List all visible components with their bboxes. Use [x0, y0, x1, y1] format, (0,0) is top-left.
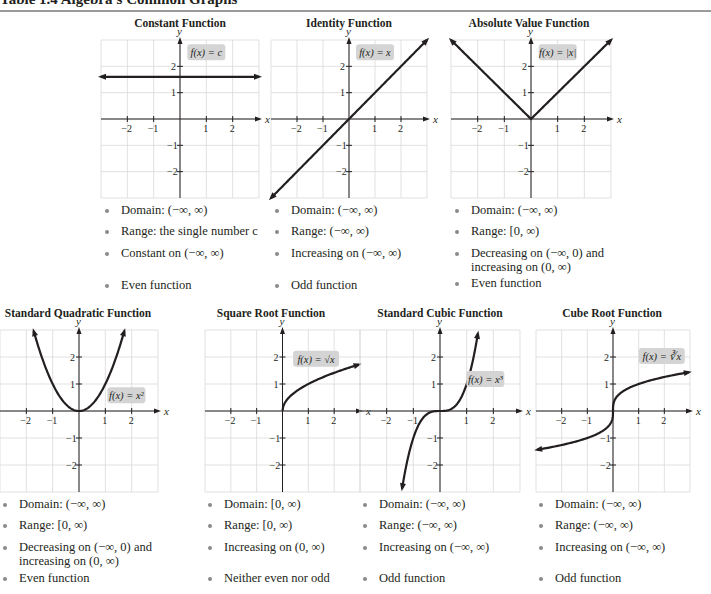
x-tick-label: 2	[331, 415, 336, 426]
y-tick-label: 1	[522, 87, 527, 98]
function-label-text: f(x) = x³	[468, 374, 504, 386]
y-tick-label: −1	[600, 433, 611, 444]
property-item: Even function	[0, 571, 89, 586]
property-item: Range: [0, ∞)	[205, 518, 292, 533]
y-tick-label: −1	[427, 433, 438, 444]
curve-end-arrow-icon	[474, 331, 480, 339]
y-tick-label: 2	[431, 352, 436, 363]
axes: xy−2−11221−1−2	[205, 315, 371, 492]
y-tick-label: 1	[431, 379, 436, 390]
property-item: Neither even nor odd	[205, 571, 330, 586]
x-tick-label: 2	[661, 415, 666, 426]
axes: xy−2−11221−1−2	[360, 315, 531, 492]
function-label: f(x) = x²	[107, 387, 145, 403]
x-axis-label: x	[432, 113, 438, 125]
x-tick-label: −2	[225, 415, 236, 426]
x-axis-label: x	[163, 405, 169, 417]
y-axis-label: y	[436, 315, 442, 327]
x-tick-label: −1	[47, 415, 58, 426]
property-item: Decreasing on (−∞, 0) and	[452, 246, 604, 261]
y-tick-label: −1	[167, 140, 178, 151]
curve-end-arrow-icon	[120, 328, 126, 337]
function-curve	[283, 365, 359, 411]
function-label: f(x) = |x|	[539, 44, 577, 60]
property-item: Domain: (−∞, ∞)	[0, 497, 105, 512]
property-item: Range: [0, ∞)	[452, 224, 539, 239]
curve-start-arrow-icon	[534, 446, 542, 452]
y-tick-label: 2	[522, 61, 527, 72]
title-divider	[0, 10, 711, 12]
x-tick-label: −1	[407, 415, 418, 426]
function-label: f(x) = x	[356, 44, 394, 60]
x-tick-label: 2	[129, 415, 134, 426]
property-item: increasing on (0, ∞)	[452, 260, 571, 275]
curve-start-arrow-icon	[32, 328, 38, 337]
x-tick-label: 2	[490, 415, 495, 426]
y-axis-label: y	[527, 25, 533, 37]
coordinate-plane: xy−2−11221−1−2f(x) = |x|	[451, 28, 611, 198]
x-tick-label: 1	[372, 123, 377, 134]
function-label: f(x) = ∛x	[639, 348, 685, 364]
curve-end-arrow-icon	[254, 74, 262, 80]
x-tick-label: −2	[121, 123, 132, 134]
x-tick-label: 2	[581, 123, 586, 134]
y-tick-label: 2	[70, 352, 75, 363]
y-tick-label: 2	[171, 61, 176, 72]
x-tick-label: −2	[381, 415, 392, 426]
y-axis-arrow-icon	[347, 37, 352, 44]
y-tick-label: −2	[270, 460, 281, 471]
property-item: Range: (−∞, ∞)	[272, 224, 369, 239]
property-item: Constant on (−∞, ∞)	[102, 246, 224, 261]
coordinate-plane: xy−2−11221−1−2f(x) = c	[101, 28, 259, 198]
y-tick-label: −2	[600, 460, 611, 471]
property-item: increasing on (0, ∞)	[0, 554, 119, 569]
y-axis-arrow-icon	[529, 37, 534, 44]
y-axis-label: y	[279, 315, 285, 327]
property-item: Increasing on (−∞, ∞)	[360, 540, 489, 555]
property-item: Domain: (−∞, ∞)	[102, 203, 207, 218]
y-tick-label: −2	[518, 166, 529, 177]
x-tick-label: −1	[148, 123, 159, 134]
y-tick-label: −1	[66, 433, 77, 444]
property-item: Even function	[452, 276, 541, 291]
x-tick-label: −1	[317, 123, 328, 134]
x-axis-arrow-icon	[607, 117, 614, 122]
y-axis-arrow-icon	[611, 327, 616, 334]
x-tick-label: −2	[20, 415, 31, 426]
y-tick-label: −1	[270, 433, 281, 444]
y-axis-arrow-icon	[178, 37, 183, 44]
x-axis-label: x	[264, 113, 270, 125]
y-tick-label: −1	[518, 140, 529, 151]
x-axis-label: x	[695, 405, 701, 417]
property-item: Domain: [0, ∞)	[205, 497, 301, 512]
property-item: Domain: (−∞, ∞)	[536, 497, 641, 512]
function-label-text: f(x) = |x|	[539, 47, 576, 59]
x-tick-label: 1	[203, 123, 208, 134]
y-tick-label: 1	[340, 87, 345, 98]
y-tick-label: −2	[167, 166, 178, 177]
x-tick-label: −2	[556, 415, 567, 426]
property-item: Odd function	[360, 571, 445, 586]
y-tick-label: 2	[340, 61, 345, 72]
function-label-text: f(x) = √x	[297, 354, 335, 366]
property-item: Range: (−∞, ∞)	[536, 518, 633, 533]
property-item: Domain: (−∞, ∞)	[272, 203, 377, 218]
curve-start-arrow-icon	[98, 74, 106, 80]
function-label-text: f(x) = c	[191, 47, 223, 59]
x-axis-label: x	[616, 113, 622, 125]
curve-start-arrow-icon	[400, 483, 406, 491]
y-axis-label: y	[609, 315, 615, 327]
y-axis-arrow-icon	[77, 327, 82, 334]
y-tick-label: −2	[336, 166, 347, 177]
coordinate-plane: xy−2−11221−1−2f(x) = ∛x	[536, 318, 690, 492]
function-label-text: f(x) = x²	[109, 390, 145, 402]
function-label-text: f(x) = ∛x	[642, 350, 681, 363]
x-tick-label: −2	[291, 123, 302, 134]
x-axis-arrow-icon	[686, 409, 693, 414]
y-tick-label: 1	[274, 379, 279, 390]
y-tick-label: 1	[70, 379, 75, 390]
function-label: f(x) = √x	[293, 351, 339, 367]
y-axis-arrow-icon	[280, 327, 285, 334]
y-axis-label: y	[345, 25, 351, 37]
function-label-text: f(x) = x	[359, 47, 391, 59]
